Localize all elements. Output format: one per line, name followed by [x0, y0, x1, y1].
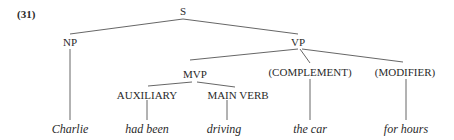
- node-np: NP: [63, 36, 77, 48]
- example-number: (31): [17, 8, 35, 20]
- node-auxiliary: AUXILIARY: [117, 89, 178, 101]
- node-complement: (COMPLEMENT): [268, 66, 351, 78]
- node-vp: VP: [291, 36, 305, 48]
- leaf-for-hours: for hours: [384, 123, 428, 135]
- node-s: S: [180, 5, 186, 17]
- node-mvp: MVP: [183, 68, 207, 80]
- leaf-charlie: Charlie: [52, 123, 89, 135]
- leaf-had-been: had been: [125, 123, 169, 135]
- node-main-verb: MAIN VERB: [207, 89, 268, 101]
- leaf-driving: driving: [207, 123, 242, 135]
- node-modifier: (MODIFIER): [375, 66, 436, 78]
- leaf-the-car: the car: [293, 123, 327, 135]
